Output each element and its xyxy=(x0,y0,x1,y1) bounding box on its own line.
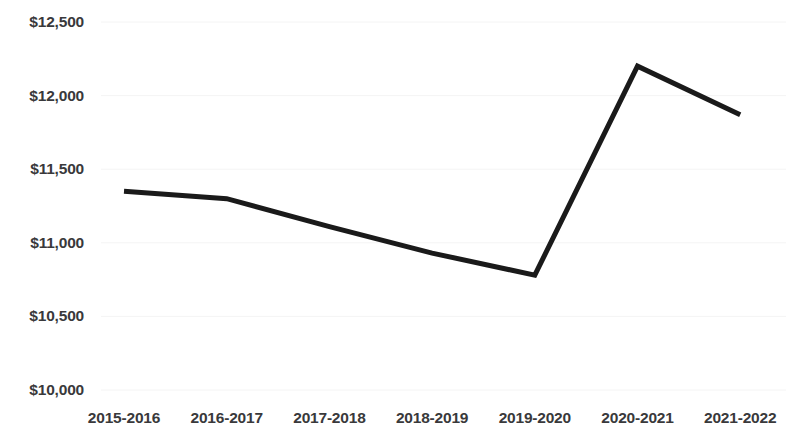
x-axis-tick-label: 2017-2018 xyxy=(293,410,365,426)
x-axis-tick-label: 2018-2019 xyxy=(396,410,468,426)
line-chart: $12,500$12,000$11,500$11,000$10,500$10,0… xyxy=(0,0,786,434)
x-axis-tick-label: 2016-2017 xyxy=(191,410,263,426)
x-axis-tick-label: 2020-2021 xyxy=(601,410,673,426)
x-axis-tick-label: 2021-2022 xyxy=(704,410,776,426)
x-axis-tick-label: 2019-2020 xyxy=(499,410,571,426)
x-axis-tick-label: 2015-2016 xyxy=(88,410,160,426)
x-axis-tick-labels: 2015-20162016-20172017-20182018-20192019… xyxy=(0,0,786,434)
